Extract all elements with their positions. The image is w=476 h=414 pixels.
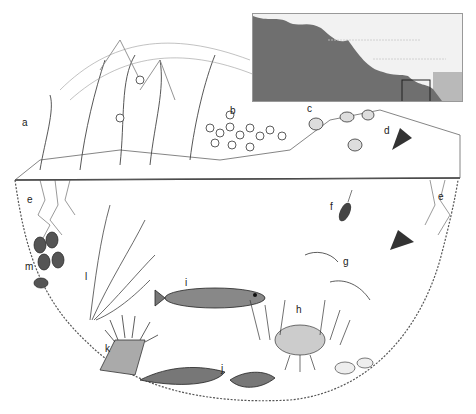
label-i: i (185, 278, 187, 288)
prawns (305, 252, 370, 300)
inset-shore-profile (252, 13, 463, 102)
blenny-fish (140, 367, 275, 387)
label-m: m (25, 262, 33, 272)
limpet-shell (392, 128, 412, 150)
label-j: j (221, 364, 223, 374)
label-b: b (230, 106, 236, 116)
label-e: e (438, 192, 444, 202)
wrack-seaweed (40, 40, 255, 170)
label-a: a (22, 118, 28, 128)
sea-slater-isopod (336, 190, 354, 223)
label-l: l (85, 272, 87, 282)
pool-floor-pebbles (335, 358, 373, 374)
label-f: f (330, 202, 333, 212)
limpet-shell-submerged (390, 230, 414, 250)
label-k: k (105, 344, 110, 354)
goby-fish (155, 288, 265, 308)
periwinkle-snails (309, 110, 374, 151)
label-g: g (343, 257, 349, 267)
label-c: c (307, 104, 312, 114)
coralline-weed (38, 180, 450, 240)
label-h: h (296, 305, 302, 315)
rock-top (15, 110, 460, 180)
label-d: d (384, 126, 390, 136)
label-e: e (27, 195, 33, 205)
kelp-fronds (90, 205, 155, 320)
mussel-cluster (34, 232, 64, 288)
